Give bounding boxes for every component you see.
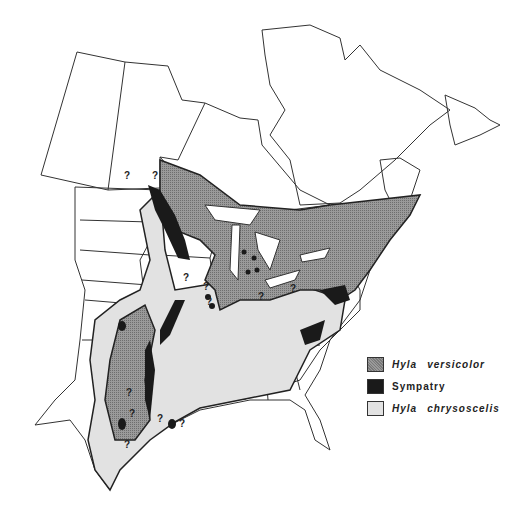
legend-item-chrysoscelis: Hylachrysoscelis	[367, 397, 500, 419]
legend-item-versicolor: Hylaversicolor	[367, 353, 500, 375]
alberta-saskatchewan-outline	[41, 52, 125, 190]
legend-label: Sympatry	[392, 381, 446, 392]
legend-item-sympatry: Sympatry	[367, 375, 500, 397]
range-map: ? ? ? ? ? ? ? ? ? ? ? ?	[0, 0, 516, 512]
sympatry-locality-dot	[252, 256, 257, 261]
legend-species: chrysoscelis	[427, 403, 500, 414]
legend-species: versicolor	[427, 359, 485, 370]
map-legend: Hylaversicolor Sympatry Hylachrysoscelis	[367, 353, 500, 419]
question-mark: ?	[152, 170, 158, 181]
sympatry-locality-dot	[242, 250, 247, 255]
legend-swatch-versicolor	[367, 357, 384, 372]
sympatry-locality-dot	[246, 270, 251, 275]
question-mark: ?	[258, 291, 264, 302]
question-mark: ?	[157, 413, 163, 424]
question-mark: ?	[129, 408, 135, 419]
legend-genus: Hyla	[392, 359, 417, 370]
lake-michigan	[230, 225, 240, 280]
newfoundland-outline	[445, 95, 500, 145]
question-mark: ?	[206, 296, 212, 307]
legend-genus: Hyla	[392, 403, 417, 414]
question-mark: ?	[126, 387, 132, 398]
question-mark: ?	[203, 281, 209, 292]
question-mark: ?	[183, 272, 189, 283]
question-mark: ?	[124, 170, 130, 181]
question-mark: ?	[179, 418, 185, 429]
legend-swatch-sympatry	[367, 379, 384, 394]
question-mark: ?	[124, 439, 130, 450]
legend-swatch-chrysoscelis	[367, 401, 384, 416]
question-mark: ?	[290, 283, 296, 294]
canada-provinces	[41, 25, 500, 210]
sympatry-locality-dot	[255, 268, 260, 273]
